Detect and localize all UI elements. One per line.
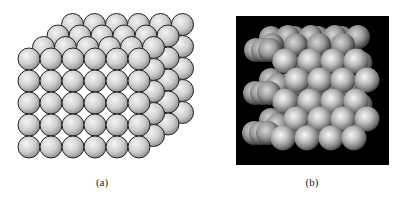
sphere bbox=[62, 70, 84, 92]
sphere bbox=[319, 126, 344, 151]
sphere bbox=[18, 70, 40, 92]
sphere bbox=[106, 48, 128, 70]
sphere bbox=[106, 114, 128, 136]
sphere bbox=[40, 136, 62, 158]
sphere bbox=[40, 48, 62, 70]
sphere bbox=[40, 114, 62, 136]
sphere bbox=[62, 136, 84, 158]
sphere bbox=[128, 70, 150, 92]
sphere bbox=[84, 92, 106, 114]
sphere bbox=[106, 70, 128, 92]
panel-a-simple-cubic-lattice: (a) bbox=[0, 0, 200, 199]
sphere bbox=[84, 48, 106, 70]
sphere bbox=[62, 92, 84, 114]
sphere bbox=[128, 48, 150, 70]
sphere-lattice-drawing bbox=[0, 0, 200, 199]
sphere bbox=[62, 48, 84, 70]
sphere bbox=[128, 92, 150, 114]
sphere bbox=[84, 136, 106, 158]
sphere bbox=[106, 92, 128, 114]
sphere bbox=[342, 126, 367, 151]
sphere bbox=[18, 114, 40, 136]
sphere bbox=[295, 126, 320, 151]
sphere bbox=[84, 114, 106, 136]
sphere bbox=[285, 68, 310, 93]
sphere bbox=[18, 48, 40, 70]
sphere bbox=[106, 136, 128, 158]
panel-a-caption: (a) bbox=[96, 176, 108, 188]
sphere bbox=[128, 114, 150, 136]
sphere bbox=[18, 136, 40, 158]
sphere bbox=[40, 70, 62, 92]
sphere bbox=[128, 136, 150, 158]
panel-b-caption: (b) bbox=[306, 176, 319, 188]
sphere bbox=[271, 126, 296, 151]
sphere bbox=[18, 92, 40, 114]
sphere bbox=[40, 92, 62, 114]
panel-b-3d-sphere-crystal: (b) bbox=[200, 0, 396, 199]
sphere bbox=[84, 70, 106, 92]
rendered-crystal-image bbox=[200, 0, 396, 199]
sphere bbox=[62, 114, 84, 136]
